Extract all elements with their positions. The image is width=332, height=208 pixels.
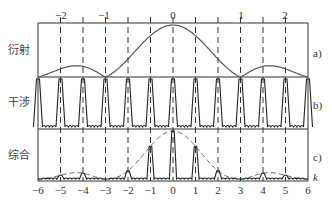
bottom-tick: 0	[170, 185, 176, 196]
top-tick-1: −1	[98, 10, 110, 21]
panel-c-label: 综合	[8, 150, 30, 161]
grating-diffraction-figure	[0, 0, 332, 208]
panel-b-label: 干涉	[8, 97, 30, 108]
bottom-tick: 6	[305, 185, 311, 196]
panel-c-tag: c)	[313, 152, 322, 163]
top-tick-4: 2	[282, 10, 288, 21]
bottom-tick: 3	[238, 185, 244, 196]
top-tick-3: 1	[238, 10, 244, 21]
bottom-tick: −2	[122, 185, 134, 196]
bottom-tick: 1	[193, 185, 199, 196]
bottom-tick: 4	[260, 185, 266, 196]
panel-a-label: 衍射	[8, 45, 30, 56]
order-dashed-lines	[61, 17, 286, 181]
top-tick-0: −2	[55, 10, 67, 21]
bottom-tick: −5	[55, 185, 67, 196]
bottom-tick: 2	[215, 185, 221, 196]
bottom-tick: −3	[100, 185, 112, 196]
bottom-tick: 5	[283, 185, 289, 196]
bottom-tick: −4	[77, 185, 89, 196]
panel-b-tag: b)	[313, 100, 322, 111]
bottom-tick: −1	[145, 185, 157, 196]
top-tick-2: 0	[170, 10, 176, 21]
panel-a-tag: a)	[313, 48, 322, 59]
k-axis-label: k	[313, 172, 318, 183]
bottom-tick: −6	[32, 185, 44, 196]
